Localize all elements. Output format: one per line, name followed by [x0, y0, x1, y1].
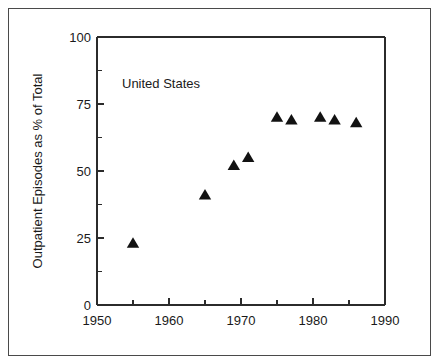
data-point-marker — [199, 189, 211, 199]
y-axis-ticks — [97, 37, 104, 305]
x-tick-label: 1980 — [299, 313, 328, 328]
x-tick-label: 1950 — [83, 313, 112, 328]
x-tick-labels: 1950 1960 1970 1980 1990 — [83, 313, 400, 328]
data-markers — [127, 111, 363, 247]
data-point-marker — [242, 152, 254, 162]
y-tick-labels: 100 75 50 25 0 — [69, 30, 91, 313]
data-point-marker — [127, 237, 139, 247]
y-tick-label: 75 — [77, 97, 91, 112]
x-tick-label: 1960 — [155, 313, 184, 328]
chart-figure: 100 75 50 25 0 1950 1960 1970 1980 1990 … — [0, 0, 439, 364]
data-point-marker — [328, 114, 340, 124]
data-point-marker — [271, 111, 283, 121]
y-tick-label: 50 — [77, 164, 91, 179]
data-point-marker — [285, 114, 297, 124]
annotation-united-states: United States — [122, 76, 201, 91]
y-tick-label: 25 — [77, 231, 91, 246]
data-point-marker — [350, 117, 362, 127]
data-point-marker — [228, 160, 240, 170]
data-point-marker — [314, 111, 326, 121]
y-axis-title: Outpatient Episodes as % of Total — [30, 73, 45, 268]
y-tick-label: 100 — [69, 30, 91, 45]
x-tick-label: 1970 — [227, 313, 256, 328]
scatter-plot: 100 75 50 25 0 1950 1960 1970 1980 1990 … — [0, 0, 439, 364]
x-tick-label: 1990 — [371, 313, 400, 328]
y-tick-label: 0 — [84, 298, 91, 313]
x-axis-ticks — [97, 298, 385, 305]
